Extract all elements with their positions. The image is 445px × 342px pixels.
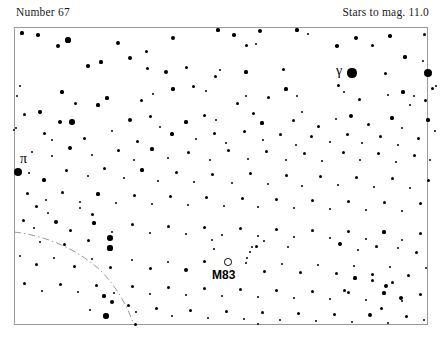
chart-frame bbox=[14, 27, 428, 325]
star-dot bbox=[429, 159, 432, 162]
star-dot bbox=[435, 85, 438, 88]
star-dot bbox=[434, 130, 437, 133]
magnitude-limit-label: Stars to mag. 11.0 bbox=[342, 6, 429, 18]
star-chart-page: Number 67 Stars to mag. 11.0 πγM83 bbox=[0, 0, 445, 342]
star-dot bbox=[431, 87, 434, 90]
chart-number-label: Number 67 bbox=[16, 6, 70, 18]
